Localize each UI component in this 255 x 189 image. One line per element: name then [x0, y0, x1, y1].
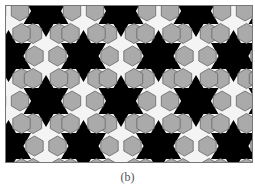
- hexagon-tile: [176, 136, 193, 156]
- hexagon-tile: [63, 6, 80, 21]
- tiling-figure: [5, 5, 253, 163]
- hexagon-tile: [176, 46, 193, 66]
- hexagon-tile: [161, 91, 178, 111]
- hexagon-tile: [86, 6, 103, 21]
- hexagon-tile: [11, 6, 28, 21]
- hexagon-tile: [138, 91, 155, 111]
- figure-caption: (b): [0, 170, 255, 185]
- hexagon-tile: [199, 46, 216, 66]
- hexagon-tile: [138, 6, 155, 21]
- hexagon-tile: [11, 91, 28, 111]
- hexagon-tile: [63, 91, 80, 111]
- hexagon-tile: [238, 24, 252, 44]
- hexagon-tile: [26, 136, 43, 156]
- hexagon-tile: [26, 46, 43, 66]
- hexagon-tile: [49, 136, 66, 156]
- hexagon-tile: [213, 91, 230, 111]
- tiling-pattern: [6, 6, 252, 162]
- hexagon-tile: [101, 136, 118, 156]
- hexagon-tile: [49, 46, 66, 66]
- hexagon-tile: [124, 136, 141, 156]
- hexagon-tile: [124, 46, 141, 66]
- hexagon-tile: [236, 91, 252, 111]
- hexagon-tile: [101, 46, 118, 66]
- hexagon-tile: [236, 6, 252, 21]
- hexagon-tile: [161, 6, 178, 21]
- hexagon-tile: [213, 6, 230, 21]
- hexagon-tile: [86, 91, 103, 111]
- hexagon-tile: [238, 114, 252, 134]
- hexagon-tile: [199, 136, 216, 156]
